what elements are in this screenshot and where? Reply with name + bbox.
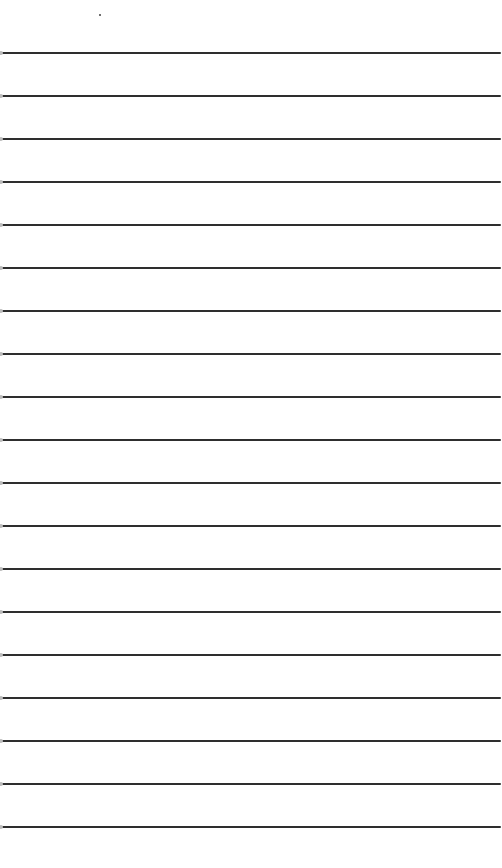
ruled-line (1, 95, 501, 97)
ruled-line (1, 654, 501, 656)
ruled-line (1, 52, 501, 54)
ruled-line (1, 138, 501, 140)
ruled-line (1, 181, 501, 183)
ruled-line (1, 783, 501, 785)
ruled-line (1, 439, 501, 441)
ruled-line (1, 396, 501, 398)
ruled-line (1, 826, 501, 828)
ruled-line (1, 611, 501, 613)
ruled-line (1, 740, 501, 742)
ruled-line (1, 267, 501, 269)
ruled-line (1, 697, 501, 699)
ink-speck (99, 14, 101, 16)
ruled-line (1, 482, 501, 484)
lined-paper-page (0, 0, 502, 868)
ruled-line (1, 525, 501, 527)
ruled-line (1, 568, 501, 570)
ruled-line (1, 310, 501, 312)
ruled-line (1, 353, 501, 355)
ruled-line (1, 224, 501, 226)
